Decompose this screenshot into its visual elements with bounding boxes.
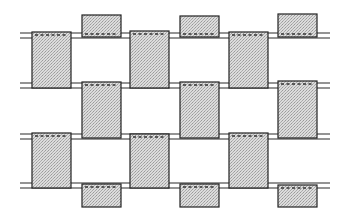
weave-diagram xyxy=(0,0,346,223)
weave-strip-b xyxy=(82,184,121,207)
weave-strip-c xyxy=(130,134,169,188)
weave-strip-f xyxy=(278,14,317,37)
weave-strip-a xyxy=(32,32,71,88)
weave-strip-e xyxy=(229,32,268,88)
weave-strip-f xyxy=(278,81,317,138)
weave-strip-f xyxy=(278,185,317,207)
vertical-strips xyxy=(32,14,317,207)
weave-strip-a xyxy=(32,133,71,188)
weave-strip-b xyxy=(82,15,121,37)
weave-strip-d xyxy=(180,16,219,37)
weave-strip-c xyxy=(130,31,169,88)
weave-strip-b xyxy=(82,82,121,138)
weave-strip-d xyxy=(180,82,219,138)
weave-strip-e xyxy=(229,133,268,188)
weave-strip-d xyxy=(180,184,219,207)
